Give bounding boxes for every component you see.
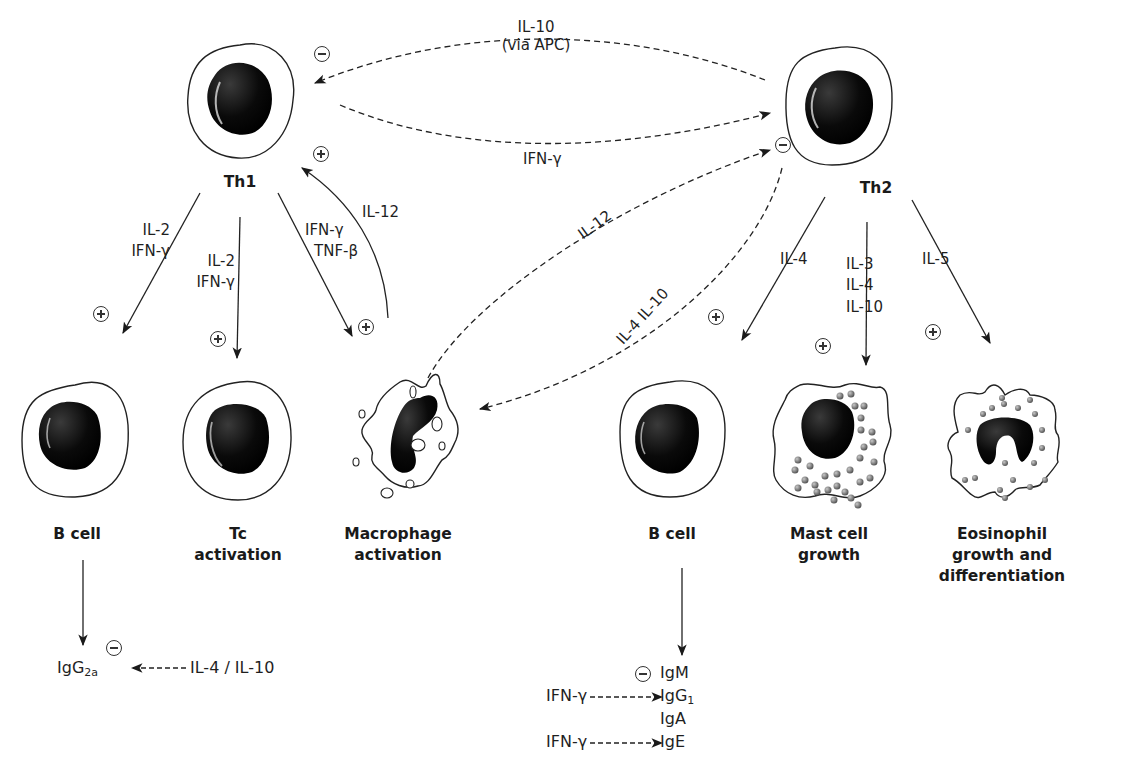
- th1-bcell-ifn: IFN-γ: [105, 242, 170, 261]
- th2-eos-il5: IL-5: [922, 250, 949, 269]
- th2-mast-il3: IL-3: [846, 255, 873, 274]
- tc-label-1: Tc: [229, 524, 247, 544]
- th1-mac-ifn: IFN-γ: [305, 221, 344, 240]
- ifn-gamma-cross-label: IFN-γ: [523, 150, 562, 169]
- macrophage-label-2: activation: [354, 545, 441, 565]
- th1-tc-ifn: IFN-γ: [170, 273, 235, 292]
- ige-inducer-label: IFN-γ: [546, 732, 587, 751]
- th1-tc-il2: IL-2: [185, 252, 235, 271]
- plus-sign-icon: [358, 319, 374, 335]
- th1-cell-icon: [188, 44, 294, 158]
- arrow-th2-to-eos: [912, 200, 990, 343]
- b-cell-left-label: B cell: [53, 524, 101, 544]
- b-cell-right-label: B cell: [648, 524, 696, 544]
- plus-sign-icon: [93, 306, 109, 322]
- plus-sign-icon: [313, 146, 329, 162]
- minus-sign-icon: [106, 640, 122, 656]
- arrow-ifn-th1-to-th2: [340, 105, 770, 144]
- mast-label-2: growth: [798, 545, 860, 565]
- b-cell-right-icon: [620, 381, 725, 497]
- iga-label: IgA: [660, 709, 686, 728]
- il4-il10-inhibitor-label: IL-4 / IL-10: [190, 658, 274, 677]
- tc-cell-icon: [183, 382, 291, 500]
- diagram-canvas: [0, 0, 1139, 781]
- arrow-il4-il10-th2-to-mac: [480, 168, 782, 409]
- igg2a-label: IgG2a: [57, 658, 98, 677]
- macrophage-label-1: Macrophage: [344, 524, 452, 544]
- th2-mast-il4: IL-4: [846, 276, 873, 295]
- minus-sign-icon: [314, 46, 330, 62]
- il10-label: IL-10: [517, 18, 554, 37]
- igm-label: IgM: [660, 663, 689, 682]
- th1-bcell-il2: IL-2: [115, 221, 170, 240]
- b-cell-left-icon: [22, 382, 128, 497]
- th2-bcell-il4: IL-4: [780, 250, 807, 269]
- plus-sign-icon: [925, 324, 941, 340]
- eosinophil-label-1: Eosinophil: [957, 524, 1047, 544]
- th1-mac-tnf: TNF-β: [314, 242, 358, 261]
- plus-sign-icon: [708, 309, 724, 325]
- via-apc-label: (via APC): [502, 36, 571, 55]
- plus-sign-icon: [210, 331, 226, 347]
- mast-label-1: Mast cell: [790, 524, 868, 544]
- tc-label-2: activation: [194, 545, 281, 565]
- il12-feedback-label: IL-12: [362, 203, 399, 222]
- th2-cell-icon: [786, 47, 892, 165]
- arrow-th1-to-mac: [278, 193, 352, 336]
- igg1-label: IgG1: [660, 686, 694, 705]
- th1-label: Th1: [224, 172, 256, 192]
- arrow-th1-to-tc: [237, 217, 240, 358]
- ige-label: IgE: [660, 732, 685, 751]
- th2-mast-il10: IL-10: [846, 298, 883, 317]
- th2-label: Th2: [860, 178, 892, 198]
- mast-cell-icon: [773, 384, 891, 509]
- arrow-il12-mac-to-th2: [428, 150, 770, 378]
- minus-sign-icon: [775, 137, 791, 153]
- minus-sign-icon: [635, 666, 651, 682]
- plus-sign-icon: [815, 338, 831, 354]
- macrophage-icon: [353, 374, 458, 498]
- eosinophil-label-3: differentiation: [939, 566, 1065, 586]
- igg1-inducer-label: IFN-γ: [546, 686, 587, 705]
- eosinophil-label-2: growth and: [952, 545, 1052, 565]
- eosinophil-icon: [948, 385, 1059, 501]
